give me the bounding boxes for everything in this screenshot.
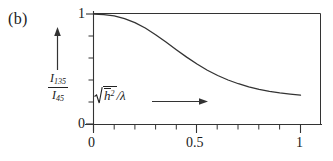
lambda-divisor: /λ [117, 88, 126, 103]
radical-symbol-icon: h2 [94, 86, 117, 104]
y-axis-label: I135 I45 [30, 72, 86, 104]
radical-stroke-icon [94, 86, 103, 104]
x-tick-label-0: 0 [88, 136, 95, 150]
figure-panel: (b) [0, 0, 333, 161]
x-axis-label: h2 /λ [94, 86, 126, 104]
y-tick-label-0: 0 [78, 117, 85, 131]
y-axis [86, 11, 94, 131]
x-tick-label-1: 1 [296, 136, 303, 150]
y-axis-label-fraction: I135 I45 [48, 72, 68, 104]
y-axis-direction-arrow [54, 27, 61, 70]
y-axis-label-numerator: I135 [48, 72, 68, 88]
y-axis-label-denominator: I45 [48, 88, 68, 103]
x-axis-direction-arrow [152, 98, 208, 105]
x-axis [85, 125, 322, 134]
radicand: h2 [103, 86, 117, 104]
x-tick-label-0-5: 0.5 [186, 136, 204, 150]
data-curve [94, 14, 301, 95]
plot-frame [93, 14, 321, 125]
y-tick-label-1: 1 [78, 7, 85, 21]
